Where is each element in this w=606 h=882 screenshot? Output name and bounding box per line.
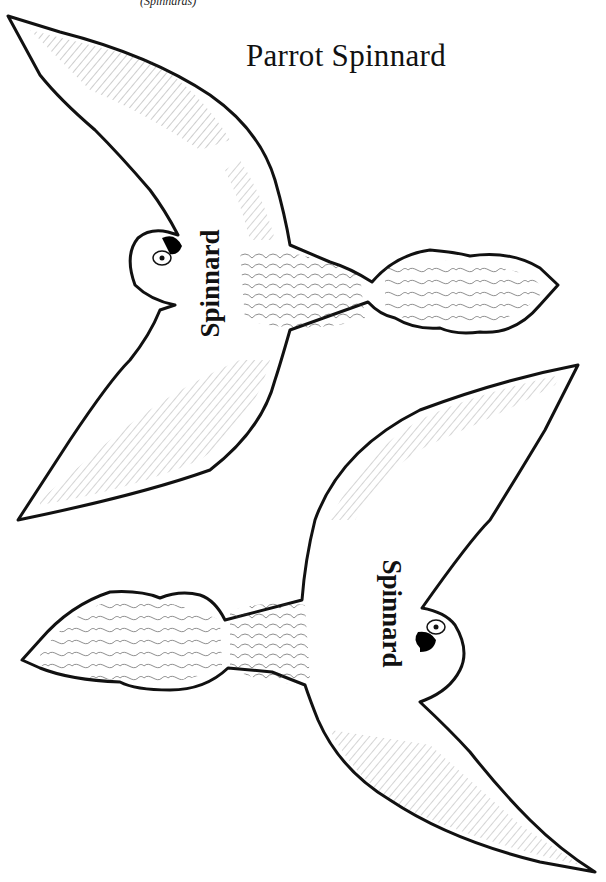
top-body-feathers [240, 249, 365, 327]
bottom-body-feathers [230, 603, 310, 683]
parrot-cutout-illustration [0, 0, 606, 882]
bottom-tail-feathers [40, 598, 222, 683]
top-parrot-label: Spinnard [195, 229, 226, 337]
bottom-parrot-label: Spinnard [376, 559, 407, 667]
